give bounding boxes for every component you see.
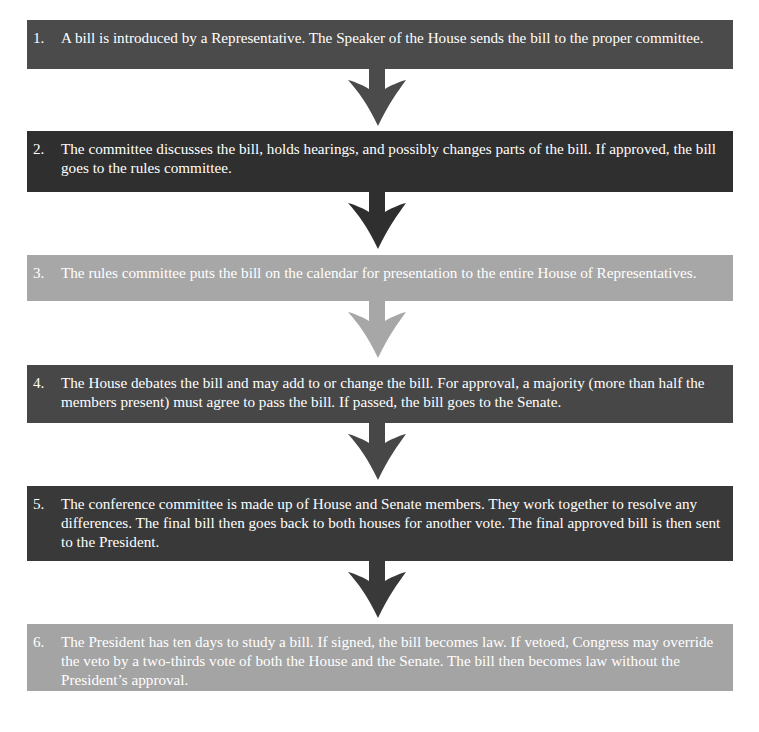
step-3-number: 3. (33, 263, 44, 282)
step-3-text: The rules committee puts the bill on the… (61, 264, 697, 281)
step-2-box: 2. The committee discusses the bill, hol… (27, 131, 733, 192)
down-arrow-icon (346, 301, 408, 359)
down-arrow-icon (346, 423, 408, 481)
bill-process-flowchart: 1. A bill is introduced by a Representat… (0, 0, 759, 732)
step-1-text: A bill is introduced by a Representative… (61, 29, 704, 46)
step-5-number: 5. (33, 494, 44, 513)
step-3-box: 3. The rules committee puts the bill on … (27, 255, 733, 301)
down-arrow-icon (346, 561, 408, 619)
step-2-text: The committee discusses the bill, holds … (61, 140, 716, 176)
down-arrow-icon (346, 69, 408, 127)
step-5-box: 5. The conference committee is made up o… (27, 486, 733, 561)
step-1-number: 1. (33, 28, 44, 47)
step-6-number: 6. (33, 632, 44, 651)
step-2-number: 2. (33, 139, 44, 158)
step-4-number: 4. (33, 373, 44, 392)
step-4-text: The House debates the bill and may add t… (61, 374, 705, 410)
step-5-text: The conference committee is made up of H… (61, 495, 720, 550)
step-1-box: 1. A bill is introduced by a Representat… (27, 20, 733, 69)
step-6-box: 6. The President has ten days to study a… (27, 624, 733, 691)
step-4-box: 4. The House debates the bill and may ad… (27, 365, 733, 423)
down-arrow-icon (346, 192, 408, 250)
step-6-text: The President has ten days to study a bi… (61, 633, 713, 688)
